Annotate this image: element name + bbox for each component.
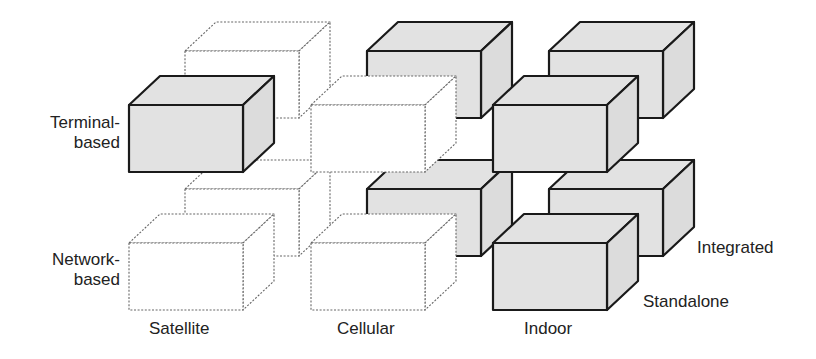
label-network-line2: based [20,270,120,290]
front-face [311,243,425,310]
label-cellular: Cellular [337,319,395,339]
front-face [493,243,607,310]
label-network-based: Network- based [20,250,120,290]
label-standalone: Standalone [643,292,729,312]
label-terminal-line2: based [20,133,120,153]
cube-cellular-terminal-based-standalone [311,76,456,172]
label-terminal-based: Terminal- based [20,113,120,153]
cube-indoor-network-based-standalone [493,214,638,310]
front-face [493,105,607,172]
label-terminal-line1: Terminal- [20,113,120,133]
cube-satellite-network-based-standalone [129,214,274,310]
label-indoor: Indoor [524,319,572,339]
label-network-line1: Network- [20,250,120,270]
front-face [311,105,425,172]
cube-indoor-terminal-based-standalone [493,76,638,172]
label-integrated: Integrated [697,238,774,258]
cube-satellite-terminal-based-standalone [129,76,274,172]
cube-cellular-network-based-standalone [311,214,456,310]
front-face [129,243,243,310]
front-face [129,105,243,172]
label-satellite: Satellite [149,319,209,339]
